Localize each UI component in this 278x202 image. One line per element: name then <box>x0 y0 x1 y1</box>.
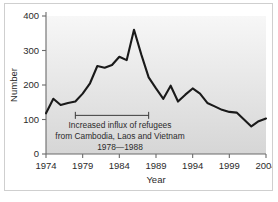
x-axis-tick-label: 1984 <box>109 160 130 171</box>
annotation-line-1: Increased influx of refugees <box>69 120 172 130</box>
x-axis: 1974197919841989199419992004Year <box>35 154 272 185</box>
annotation-line-3: 1978—1988 <box>97 142 143 152</box>
y-axis: 0100200300400Number <box>8 10 46 159</box>
x-axis-tick-label: 1994 <box>182 160 203 171</box>
x-axis-tick-label: 1979 <box>72 160 93 171</box>
y-axis-tick-label: 200 <box>23 79 39 90</box>
y-axis-tick-label: 400 <box>23 10 39 21</box>
y-axis-tick-label: 0 <box>34 148 39 159</box>
figure-frame: 1974197919841989199419992004Year 0100200… <box>4 3 273 191</box>
annotation-line-2: from Cambodia, Laos and Vietnam <box>55 131 184 141</box>
y-axis-title: Number <box>8 68 19 102</box>
x-axis-title: Year <box>146 174 165 185</box>
line-chart: 1974197919841989199419992004Year 0100200… <box>5 4 272 190</box>
x-axis-tick-label: 1999 <box>219 160 240 171</box>
y-axis-tick-label: 100 <box>23 114 39 125</box>
y-axis-tick-label: 300 <box>23 45 39 56</box>
x-axis-tick-label: 1989 <box>145 160 166 171</box>
x-axis-tick-label: 1974 <box>35 160 56 171</box>
figure-root: 1974197919841989199419992004Year 0100200… <box>0 0 278 202</box>
x-axis-tick-label: 2004 <box>255 160 272 171</box>
